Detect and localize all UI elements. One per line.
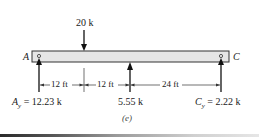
reaction-c-label: Cy = 2.22 k <box>195 97 240 110</box>
reaction-arrow-c-icon <box>218 58 224 92</box>
support-a-label: A <box>23 52 29 62</box>
reaction-arrow-a-icon <box>36 58 42 92</box>
beam <box>32 51 229 62</box>
figure-caption: (e) <box>122 114 132 123</box>
dimension-label-3: 24 ft <box>162 80 179 89</box>
support-c-label: C <box>233 52 240 62</box>
load-arrow-icon <box>81 30 87 51</box>
dimension-label-2: 12 ft <box>97 80 114 89</box>
reaction-a-label: Ay = 12.23 k <box>12 97 62 110</box>
dimension-label-1: 12 ft <box>51 80 68 89</box>
reaction-c-value: = 2.22 k <box>205 96 241 107</box>
reaction-arrow-b-icon <box>127 62 133 92</box>
reaction-a-value: = 12.23 k <box>21 96 62 107</box>
reaction-b-label: 5.55 k <box>118 97 143 107</box>
bottom-divider <box>0 134 259 137</box>
reaction-c-symbol: C <box>195 96 202 107</box>
load-label: 20 k <box>76 18 94 28</box>
